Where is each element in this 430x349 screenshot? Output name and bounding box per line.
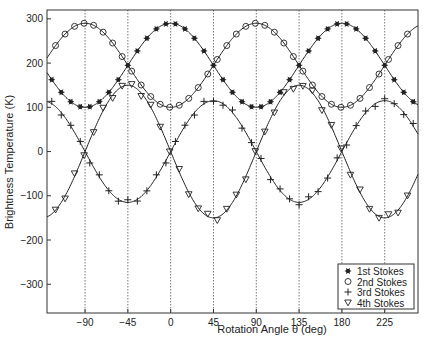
y-axis-label: Brightness Temperature (K) [3, 95, 15, 229]
y-tick-label: −100 [20, 190, 43, 201]
fit-curve [47, 23, 418, 107]
marker-plus [134, 198, 141, 205]
marker-triangle [147, 102, 154, 108]
x-tick-label: 180 [334, 317, 351, 328]
marker-plus [191, 112, 198, 119]
y-axis-ticks: 3002001000−100−200−300 [20, 13, 51, 289]
marker-plus [391, 100, 398, 107]
marker-plus [115, 198, 122, 205]
y-tick-label: −200 [20, 235, 43, 246]
marker-triangle [214, 218, 221, 224]
legend: 1st Stokes2nd Stokes3rd Stokes4th Stokes [338, 264, 414, 309]
marker-plus [248, 139, 255, 146]
marker-plus [362, 107, 369, 114]
marker-plus [210, 98, 217, 105]
marker-triangle [328, 122, 335, 128]
marker-triangle [290, 86, 297, 92]
y-tick-label: 100 [26, 102, 43, 113]
marker-plus [267, 176, 274, 183]
legend-label: 4th Stokes [357, 298, 404, 309]
y-tick-label: 200 [26, 58, 43, 69]
marker-plus [305, 193, 312, 200]
legend-label: 2nd Stokes [357, 277, 407, 288]
legend-label: 1st Stokes [357, 266, 404, 277]
marker-triangle [176, 166, 183, 172]
fit-curve [47, 23, 418, 107]
x-axis-label: Rotation Angle θ (deg) [217, 323, 326, 335]
y-tick-label: −300 [20, 279, 43, 290]
marker-plus [48, 98, 55, 105]
marker-triangle [204, 211, 211, 217]
marker-triangle [357, 187, 364, 193]
y-tick-label: 0 [37, 146, 43, 157]
marker-plus [400, 111, 407, 118]
x-tick-label: −45 [119, 317, 136, 328]
marker-triangle [100, 105, 107, 111]
marker-plus [58, 112, 65, 119]
x-tick-label: −90 [77, 317, 94, 328]
marker-triangle [71, 171, 78, 177]
marker-plus [200, 98, 207, 105]
x-tick-label: 225 [376, 317, 393, 328]
marker-plus [286, 195, 293, 202]
legend-label: 3rd Stokes [357, 287, 405, 298]
x-tick-label: 0 [168, 317, 174, 328]
marker-triangle [223, 206, 230, 212]
marker-plus [315, 188, 322, 195]
marker-plus [229, 106, 236, 113]
marker-plus [277, 185, 284, 192]
y-tick-label: 300 [26, 13, 43, 24]
marker-plus [410, 120, 417, 127]
data-markers [48, 20, 416, 223]
stokes-chart: 3002001000−100−200−300 −90−4504590135180… [0, 0, 430, 349]
marker-plus [372, 103, 379, 110]
